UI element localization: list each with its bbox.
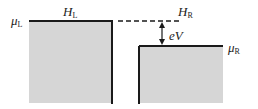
mu-left-label: μL xyxy=(11,14,22,29)
mu-right-label: μR xyxy=(228,41,240,56)
h-right-label: HR xyxy=(178,5,193,20)
bias-label: eV xyxy=(169,29,183,42)
tunnel-junction-diagram xyxy=(0,0,258,109)
left-electrode-fill xyxy=(29,21,112,103)
right-electrode-fill xyxy=(140,46,223,103)
bias-double-arrow-icon xyxy=(159,22,165,45)
h-left-label: HL xyxy=(63,5,77,20)
